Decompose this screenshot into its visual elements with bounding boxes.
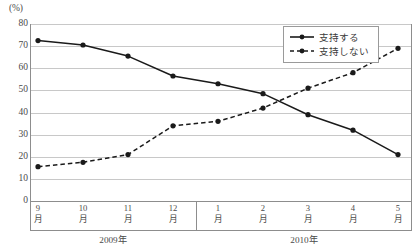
data-point-marker bbox=[215, 119, 220, 124]
data-point-marker bbox=[215, 81, 220, 86]
data-point-marker bbox=[260, 91, 265, 96]
series-line-dashed bbox=[38, 48, 398, 166]
data-point-marker bbox=[395, 46, 400, 51]
chart-legend: 支持する 支持しない bbox=[283, 26, 379, 63]
line-chart: (%) 80706050403020100 9月10月11月12月1月2月3月4… bbox=[0, 0, 416, 250]
data-point-marker bbox=[170, 73, 175, 78]
data-point-marker bbox=[260, 105, 265, 110]
legend-item-not-support[interactable]: 支持しない bbox=[289, 44, 373, 58]
legend-label-support: 支持する bbox=[319, 30, 359, 44]
legend-label-not-support: 支持しない bbox=[319, 44, 369, 58]
data-point-marker bbox=[170, 123, 175, 128]
data-point-marker bbox=[305, 86, 310, 91]
data-point-marker bbox=[125, 53, 130, 58]
data-point-marker bbox=[395, 152, 400, 157]
legend-key-dashed-line-icon bbox=[289, 45, 315, 57]
data-point-marker bbox=[125, 152, 130, 157]
data-point-marker bbox=[80, 160, 85, 165]
data-point-marker bbox=[80, 42, 85, 47]
legend-item-support[interactable]: 支持する bbox=[289, 30, 373, 44]
data-point-marker bbox=[35, 164, 40, 169]
data-point-marker bbox=[35, 38, 40, 43]
legend-key-solid-line-icon bbox=[289, 31, 315, 43]
data-point-marker bbox=[350, 70, 355, 75]
data-point-marker bbox=[305, 112, 310, 117]
data-point-marker bbox=[350, 128, 355, 133]
